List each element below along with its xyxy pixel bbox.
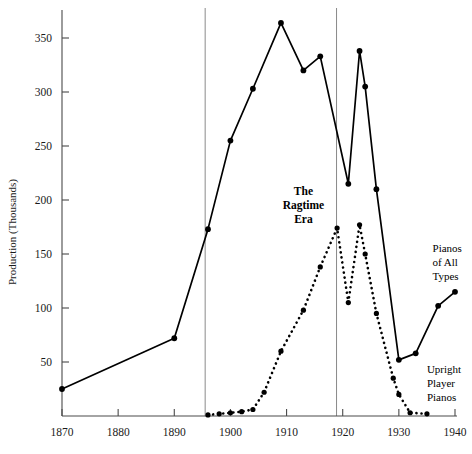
data-point [424, 411, 429, 416]
data-point [345, 181, 351, 187]
data-point [250, 407, 255, 412]
x-tick-label: 1880 [107, 426, 130, 438]
data-point [171, 335, 177, 341]
annotation-upright-player-pianos: UprightPlayerPianos [427, 363, 461, 403]
data-point [374, 186, 380, 192]
annotation-pianos-of-all-types: Pianosof AllTypes [433, 242, 462, 282]
data-point [239, 409, 244, 414]
x-tick-label: 1890 [163, 426, 186, 438]
data-point [262, 390, 267, 395]
data-point [346, 300, 351, 305]
x-ticks: 18701880189019001910192019301940 [51, 409, 467, 438]
data-point [278, 349, 283, 354]
data-point [396, 392, 401, 397]
x-tick-label: 1930 [387, 426, 410, 438]
y-axis-title: Production (Thousands) [6, 179, 19, 285]
data-point [452, 289, 458, 295]
y-ticks: 50100150200250300350 [35, 32, 69, 368]
data-point [205, 412, 210, 417]
data-point [228, 138, 234, 144]
data-point [362, 84, 368, 90]
y-tick-label: 350 [35, 32, 53, 44]
y-tick-label: 150 [35, 248, 53, 260]
annotation-ragtime-era: TheRagtimeEra [283, 185, 325, 225]
annotation-line: Types [433, 270, 459, 282]
x-tick-label: 1870 [51, 426, 74, 438]
annotation-line: Pianos [433, 242, 462, 254]
data-point [317, 53, 323, 59]
x-tick-label: 1920 [331, 426, 354, 438]
y-tick-label: 200 [35, 194, 53, 206]
data-point [301, 308, 306, 313]
data-point [391, 376, 396, 381]
annotation-line: Upright [427, 363, 461, 375]
y-tick-label: 50 [41, 356, 53, 368]
annotation-line: Era [294, 213, 313, 225]
x-tick-label: 1910 [275, 426, 298, 438]
data-point [435, 303, 441, 309]
reference-lines [205, 8, 336, 416]
data-point [374, 311, 379, 316]
annotation-line: Pianos [427, 391, 456, 403]
y-tick-label: 300 [35, 86, 53, 98]
series-line [62, 23, 455, 389]
chart-canvas: 5010015020025030035018701880189019001910… [0, 0, 472, 454]
data-point [396, 357, 402, 363]
piano-production-chart: 5010015020025030035018701880189019001910… [0, 0, 472, 454]
y-tick-label: 250 [35, 140, 53, 152]
annotation-line: Player [427, 377, 455, 389]
data-point [228, 410, 233, 415]
data-point [363, 251, 368, 256]
series-upright-player-pianos [205, 222, 429, 417]
data-point [335, 225, 340, 230]
x-tick-label: 1940 [444, 426, 467, 438]
annotation-line: Ragtime [283, 199, 325, 212]
x-tick-label: 1900 [219, 426, 242, 438]
data-point [217, 411, 222, 416]
series-pianos-of-all-types [59, 20, 458, 392]
annotation-line: The [294, 185, 313, 197]
y-tick-label: 100 [35, 302, 53, 314]
data-point [205, 226, 211, 232]
data-point [413, 350, 419, 356]
data-point [278, 20, 284, 26]
data-point [250, 86, 256, 92]
data-point [407, 410, 412, 415]
data-point [301, 68, 307, 74]
data-point [357, 222, 362, 227]
data-point [357, 48, 363, 54]
annotation-line: of All [433, 256, 458, 268]
data-point [318, 264, 323, 269]
data-point [59, 386, 65, 392]
